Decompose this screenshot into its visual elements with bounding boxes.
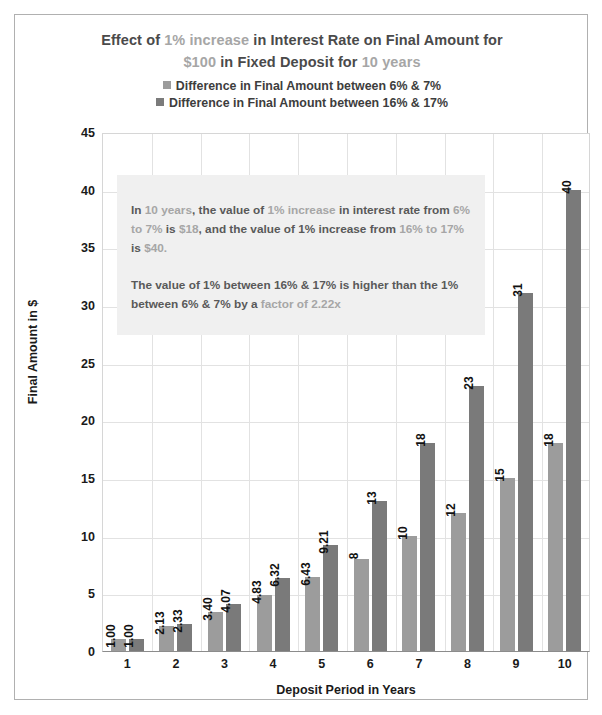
x-axis-tick: 2 [152,657,201,671]
chart-title-line-1: Effect of 1% increase in Interest Rate o… [45,29,559,51]
bar-value-label: 3.40 [201,597,215,620]
bar-group: 1840 [540,134,589,651]
annotation-paragraph-2: The value of 1% between 16% & 17% is hig… [131,276,471,314]
x-axis-tick: 10 [540,657,589,671]
y-axis-tick: 40 [55,184,95,198]
y-axis-tick: 30 [55,299,95,313]
bar-value-label: 12 [444,503,458,516]
legend-swatch-icon-series-1 [163,81,171,89]
x-axis-tick: 5 [297,657,346,671]
y-axis-tick: 25 [55,357,95,371]
bar-series-2[interactable]: 40 [566,190,581,651]
y-axis-tick-labels: 454035302520151050 [47,133,95,652]
bar-group: 1531 [492,134,541,651]
x-axis-tick: 4 [249,657,298,671]
bar-value-label: 4.07 [219,589,233,612]
y-axis-tick: 20 [55,414,95,428]
y-axis-title: Final Amount in $ [26,252,40,452]
legend-item-series-1[interactable]: Difference in Final Amount between 6% & … [45,78,559,95]
bar-series-2[interactable]: 6.32 [275,578,290,651]
bar-value-label: 18 [414,434,428,447]
bar-series-1[interactable]: 12 [451,513,466,651]
bar-value-label: 2.33 [171,609,185,632]
chart-title-line-2: $100 in Fixed Deposit for 10 years [45,51,559,73]
y-axis-tick: 10 [55,530,95,544]
bar-value-label: 18 [542,434,556,447]
y-axis-tick: 15 [55,472,95,486]
bar-series-2[interactable]: 13 [372,501,387,651]
chart-title: Effect of 1% increase in Interest Rate o… [45,29,559,73]
bar-value-label: 6.32 [268,563,282,586]
bar-value-label: 1.00 [104,625,118,648]
y-axis-tick: 45 [55,126,95,140]
legend-label-series-2: Difference in Final Amount between 16% &… [169,96,448,110]
bar-value-label: 23 [462,376,476,389]
bar-series-1[interactable]: 8 [354,559,369,651]
bar-series-2[interactable]: 18 [420,443,435,651]
x-axis-tick: 8 [443,657,492,671]
bar-series-2[interactable]: 23 [469,386,484,651]
bar-series-1[interactable]: 10 [402,536,417,651]
bar-series-1[interactable]: 18 [548,443,563,651]
bar-series-2[interactable]: 1.00 [129,639,144,651]
bar-value-label: 9.21 [317,530,331,553]
bar-value-label: 2.13 [153,612,167,635]
x-axis-title: Deposit Period in Years [102,683,590,697]
bar-value-label: 15 [493,468,507,481]
bar-series-1[interactable]: 6.43 [305,577,320,651]
bar-series-1[interactable]: 3.40 [208,612,223,651]
x-axis-tick: 7 [395,657,444,671]
bar-value-label: 1.00 [122,625,136,648]
x-axis-tick: 6 [346,657,395,671]
bar-value-label: 4.83 [250,581,264,604]
bar-series-2[interactable]: 31 [518,293,533,651]
bar-value-label: 8 [347,552,361,559]
x-axis-tick: 1 [103,657,152,671]
bar-series-1[interactable]: 4.83 [257,595,272,651]
bar-value-label: 40 [560,180,574,193]
y-axis-tick: 35 [55,241,95,255]
x-axis-tick: 3 [200,657,249,671]
y-axis-tick: 0 [55,645,95,659]
bar-series-2[interactable]: 2.33 [177,624,192,651]
annotation-paragraph-1: In 10 years, the value of 1% increase in… [131,201,471,258]
legend-item-series-2[interactable]: Difference in Final Amount between 16% &… [45,95,559,112]
chart-frame: Effect of 1% increase in Interest Rate o… [14,14,588,700]
bar-series-2[interactable]: 9.21 [323,545,338,651]
annotation-callout: In 10 years, the value of 1% increase in… [117,175,485,335]
bar-value-label: 10 [396,526,410,539]
y-axis-tick: 5 [55,587,95,601]
legend-swatch-icon-series-2 [156,98,164,106]
x-axis-tick: 9 [492,657,541,671]
bar-value-label: 6.43 [299,562,313,585]
legend-label-series-1: Difference in Final Amount between 6% & … [176,79,441,93]
bar-series-1[interactable]: 15 [500,478,515,651]
bar-value-label: 13 [365,491,379,504]
x-axis-tick-labels: 12345678910 [103,657,589,671]
chart-legend: Difference in Final Amount between 6% & … [45,78,559,112]
bar-series-2[interactable]: 4.07 [226,604,241,651]
bar-value-label: 31 [511,284,525,297]
